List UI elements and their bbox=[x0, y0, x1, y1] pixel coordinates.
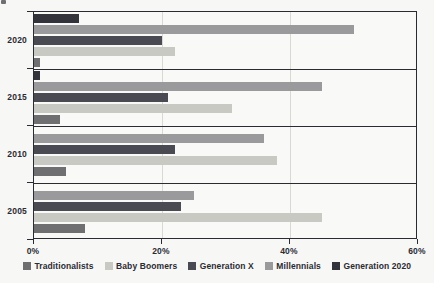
bar-2005-baby-boomers bbox=[34, 213, 322, 222]
corner-artifact-mark bbox=[1, 0, 6, 4]
bar-group-2015 bbox=[34, 69, 416, 126]
y-axis-label-2010: 2010 bbox=[0, 149, 27, 159]
y-axis-tick-1 bbox=[27, 68, 33, 69]
legend-swatch-icon-4 bbox=[332, 262, 340, 270]
bar-group-2010 bbox=[34, 126, 416, 183]
bar-2005-millennials bbox=[34, 191, 194, 200]
x-axis-tick-60 bbox=[417, 239, 418, 244]
legend-label: Generation 2020 bbox=[343, 261, 411, 271]
legend-swatch-icon-3 bbox=[265, 262, 273, 270]
bar-2020-generation-x bbox=[34, 36, 162, 45]
bar-2015-generation-2020 bbox=[34, 71, 40, 80]
x-axis-label-40: 40% bbox=[280, 246, 298, 256]
bar-2020-generation-2020 bbox=[34, 14, 79, 23]
bar-2005-traditionalists bbox=[34, 224, 85, 233]
legend-item-baby-boomers[interactable]: Baby Boomers bbox=[105, 261, 178, 271]
bar-2010-millennials bbox=[34, 134, 264, 143]
bar-2010-generation-x bbox=[34, 145, 175, 154]
bar-2020-millennials bbox=[34, 25, 354, 34]
generational-workforce-bar-chart: 2020201520102005 0%20%40%60% Traditional… bbox=[0, 0, 434, 283]
y-axis-label-2005: 2005 bbox=[0, 206, 27, 216]
bar-2015-traditionalists bbox=[34, 115, 60, 124]
x-axis-label-0: 0% bbox=[27, 246, 40, 256]
y-axis-tick-0 bbox=[27, 11, 33, 12]
legend-swatch-icon-1 bbox=[105, 262, 113, 270]
legend-item-generation-x[interactable]: Generation X bbox=[188, 261, 254, 271]
bar-2020-traditionalists bbox=[34, 58, 40, 67]
legend-label: Generation X bbox=[200, 261, 254, 271]
bar-2005-generation-x bbox=[34, 202, 181, 211]
plot-area bbox=[33, 11, 417, 239]
bar-2015-millennials bbox=[34, 82, 322, 91]
legend-swatch-icon-2 bbox=[188, 262, 196, 270]
x-axis-label-60: 60% bbox=[408, 246, 426, 256]
legend-label: Millennials bbox=[276, 261, 321, 271]
bar-2020-baby-boomers bbox=[34, 47, 175, 56]
legend-item-millennials[interactable]: Millennials bbox=[265, 261, 321, 271]
bar-group-2020 bbox=[34, 12, 416, 69]
y-axis-label-2015: 2015 bbox=[0, 92, 27, 102]
y-axis-label-2020: 2020 bbox=[0, 35, 27, 45]
y-axis-tick-2 bbox=[27, 125, 33, 126]
bar-2015-generation-x bbox=[34, 93, 168, 102]
chart-legend: TraditionalistsBaby BoomersGeneration XM… bbox=[0, 261, 434, 271]
legend-label: Baby Boomers bbox=[116, 261, 177, 271]
legend-swatch-icon-0 bbox=[23, 262, 31, 270]
legend-item-traditionalists[interactable]: Traditionalists bbox=[23, 261, 94, 271]
bar-group-2005 bbox=[34, 183, 416, 240]
x-axis-tick-0 bbox=[33, 239, 34, 244]
bar-2010-traditionalists bbox=[34, 167, 66, 176]
bar-2015-baby-boomers bbox=[34, 104, 232, 113]
bar-2010-baby-boomers bbox=[34, 156, 277, 165]
x-axis-label-20: 20% bbox=[152, 246, 170, 256]
x-axis-tick-20 bbox=[161, 239, 162, 244]
legend-item-generation-2020[interactable]: Generation 2020 bbox=[332, 261, 411, 271]
legend-label: Traditionalists bbox=[34, 261, 93, 271]
x-axis-tick-40 bbox=[289, 239, 290, 244]
y-axis-tick-3 bbox=[27, 182, 33, 183]
